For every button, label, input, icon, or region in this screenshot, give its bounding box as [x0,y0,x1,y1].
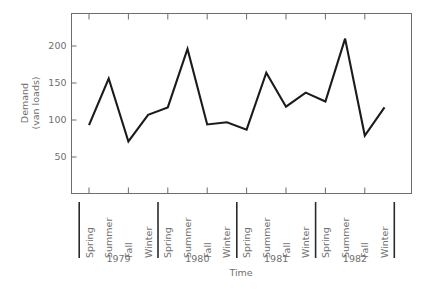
demand-time-series-chart: 50100150200 Demand (van loads) SpringSum… [0,0,433,290]
y-axis-title: Demand (van loads) [19,76,41,129]
series-group [89,39,385,142]
y-tick-label: 200 [48,40,66,51]
year-label: 1981 [264,253,288,264]
season-label: Winter [143,227,154,258]
season-label: Spring [241,227,252,258]
season-label: Summer [340,218,351,258]
season-label: Summer [103,218,114,258]
season-label: Spring [320,227,331,258]
chart-container: 50100150200 Demand (van loads) SpringSum… [0,0,433,290]
plot-axes [72,14,412,194]
y-axis: 50100150200 [48,40,76,162]
year-label: 1982 [343,253,367,264]
season-label: Summer [261,218,272,258]
year-label: 1980 [185,253,209,264]
season-label: Winter [379,227,390,258]
season-label: Spring [84,227,95,258]
season-label: Winter [300,227,311,258]
plot-frame [72,14,412,194]
season-label: Spring [162,227,173,258]
y-tick-label: 150 [48,77,66,88]
x-axis-ticks [89,14,365,194]
year-label: 1979 [106,253,130,264]
season-label: Winter [221,227,232,258]
x-axis-title: Time [228,267,252,278]
y-axis-title-line2: (van loads) [30,76,41,129]
demand-line [89,39,385,142]
y-tick-label: 100 [48,114,66,125]
season-label: Summer [182,218,193,258]
y-axis-title-line1: Demand [19,83,30,123]
y-tick-label: 50 [54,151,66,162]
